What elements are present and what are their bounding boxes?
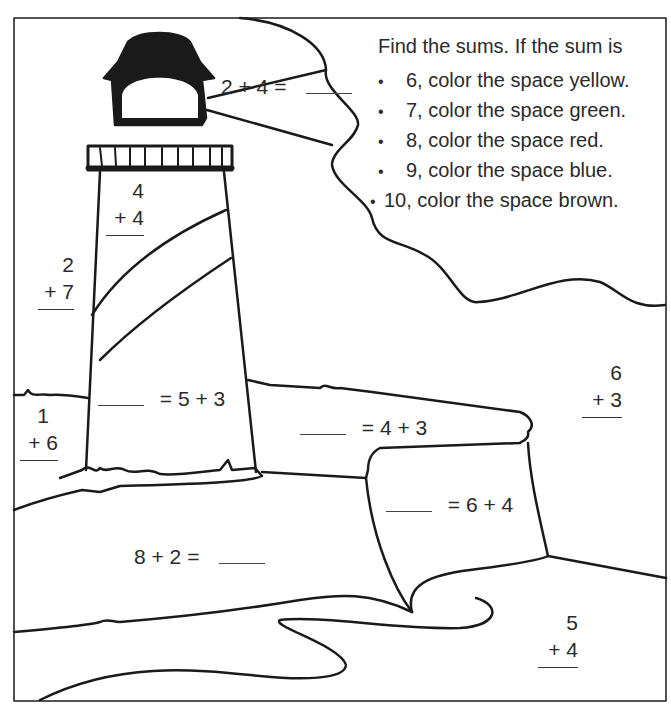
addend-bottom: + 3 xyxy=(582,389,622,416)
addend-bottom: + 4 xyxy=(106,207,144,234)
beam-lower xyxy=(207,110,332,145)
answer-blank[interactable] xyxy=(306,79,352,94)
tower-left-edge xyxy=(86,172,100,470)
sum-line[interactable] xyxy=(106,235,144,236)
problem-expression: = 6 + 4 xyxy=(448,493,513,516)
addend-top: 2 xyxy=(38,254,74,281)
instruction-item-6: • 6, color the space yellow. xyxy=(378,70,629,100)
addend-top: 4 xyxy=(106,180,144,207)
instruction-item-10: • 10, color the space brown. xyxy=(370,190,629,220)
problem-sea: 5 + 4 xyxy=(538,612,578,668)
instruction-label: 8, color the space red. xyxy=(406,130,604,150)
bullet-icon: • xyxy=(378,104,406,120)
shore-upper xyxy=(14,596,412,632)
tower-right-edge xyxy=(224,172,256,472)
instructions-title: Find the sums. If the sum is xyxy=(378,36,629,56)
problem-tower-base: = 5 + 3 xyxy=(98,388,225,409)
instruction-label: 6, color the space yellow. xyxy=(406,70,629,90)
sum-line[interactable] xyxy=(582,417,622,418)
answer-blank[interactable] xyxy=(300,420,346,435)
lamp-window xyxy=(122,78,198,118)
instruction-label: 9, color the space blue. xyxy=(406,160,613,180)
problem-left-sky: 2 + 7 xyxy=(38,254,74,310)
addend-bottom: + 6 xyxy=(20,432,58,459)
bullet-icon: • xyxy=(378,134,406,150)
instruction-label: 7, color the space green. xyxy=(406,100,626,120)
bullet-icon: • xyxy=(378,74,406,90)
problem-cliff-face: = 6 + 4 xyxy=(386,494,513,515)
bullet-icon: • xyxy=(378,164,406,180)
instructions: Find the sums. If the sum is • 6, color … xyxy=(378,36,629,220)
addend-top: 1 xyxy=(20,405,58,432)
tower-stripe-2 xyxy=(100,258,231,360)
sum-line[interactable] xyxy=(38,309,74,310)
sum-line[interactable] xyxy=(20,460,58,461)
answer-blank[interactable] xyxy=(98,391,144,406)
addend-top: 5 xyxy=(538,612,578,639)
problem-beam: 2 + 4 = xyxy=(221,76,352,97)
cliff-face-right xyxy=(528,443,548,556)
problem-expression: 2 + 4 = xyxy=(221,75,286,98)
problem-beach: 8 + 2 = xyxy=(134,546,265,567)
problem-expression: = 4 + 3 xyxy=(362,416,427,439)
instruction-item-7: • 7, color the space green. xyxy=(378,100,629,130)
addend-bottom: + 7 xyxy=(38,281,74,308)
addend-top: 6 xyxy=(582,362,622,389)
problem-left-grass: 1 + 6 xyxy=(20,405,58,461)
problem-tower-top: 4 + 4 xyxy=(106,180,144,236)
problem-right-sky: 6 + 3 xyxy=(582,362,622,418)
problem-expression: 8 + 2 = xyxy=(134,545,199,568)
addend-bottom: + 4 xyxy=(538,639,578,666)
bullet-icon: • xyxy=(370,194,384,210)
problem-cliff-top: = 4 + 3 xyxy=(300,417,427,438)
cliff-bottom xyxy=(411,556,666,612)
instruction-item-9: • 9, color the space blue. xyxy=(378,160,629,190)
problem-expression: = 5 + 3 xyxy=(160,387,225,410)
answer-blank[interactable] xyxy=(219,549,265,564)
instruction-label: 10, color the space brown. xyxy=(384,190,619,210)
answer-blank[interactable] xyxy=(386,497,432,512)
instruction-item-8: • 8, color the space red. xyxy=(378,130,629,160)
sum-line[interactable] xyxy=(538,667,578,668)
wave xyxy=(40,598,492,700)
